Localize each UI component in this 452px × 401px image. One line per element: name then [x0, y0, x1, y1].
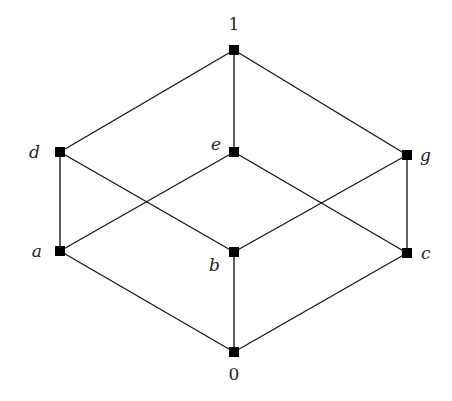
node-1 — [229, 45, 239, 55]
node-label-0: 0 — [229, 364, 240, 384]
edge-1-g — [234, 50, 407, 155]
edge-c-0 — [234, 253, 407, 352]
node-b — [229, 247, 239, 257]
node-label-b: b — [209, 255, 220, 275]
labels-group: 1degabc0 — [29, 14, 431, 384]
edge-1-d — [60, 50, 234, 152]
node-d — [55, 147, 65, 157]
node-a — [55, 246, 65, 256]
node-label-c: c — [421, 243, 431, 263]
node-label-a: a — [32, 241, 42, 261]
node-e — [229, 147, 239, 157]
hasse-diagram: 1degabc0 — [0, 0, 452, 401]
node-g — [402, 150, 412, 160]
edges-group — [60, 50, 407, 352]
node-0 — [229, 347, 239, 357]
node-c — [402, 248, 412, 258]
node-label-1: 1 — [229, 14, 240, 34]
edge-a-0 — [60, 251, 234, 352]
node-label-g: g — [420, 145, 431, 165]
node-label-e: e — [211, 134, 221, 154]
node-label-d: d — [29, 142, 40, 162]
